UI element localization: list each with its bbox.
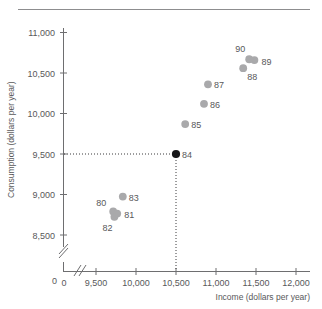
data-point-label-84: 84 bbox=[182, 150, 192, 160]
y-axis-tick-labels: 11,000 10,500 10,000 9,500 9,000 8,500 0 bbox=[27, 28, 57, 286]
x-tick-label-12000: 12,000 bbox=[282, 278, 310, 288]
data-point-90[interactable] bbox=[245, 55, 253, 63]
y-tick-label-9500: 9,500 bbox=[32, 150, 55, 160]
x-axis-title: Income (dollars per year) bbox=[216, 292, 311, 302]
x-tick-label-9500: 9,500 bbox=[85, 278, 108, 288]
data-points-layer: 8081828384858687888990 bbox=[96, 44, 271, 233]
data-point-label-87: 87 bbox=[214, 80, 224, 90]
y-tick-label-10000: 10,000 bbox=[27, 109, 55, 119]
x-tick-label-11500: 11,500 bbox=[243, 278, 270, 288]
data-point-83[interactable] bbox=[119, 193, 127, 201]
data-point-label-81: 81 bbox=[124, 210, 134, 220]
y-tick-label-9000: 9,000 bbox=[32, 190, 55, 200]
x-tick-label-10000: 10,000 bbox=[122, 278, 150, 288]
y-tick-label-11000: 11,000 bbox=[28, 28, 55, 38]
data-point-88[interactable] bbox=[239, 64, 247, 72]
data-point-label-85: 85 bbox=[191, 120, 201, 130]
x-tick-label-10500: 10,500 bbox=[162, 278, 190, 288]
scatter-plot: 11,000 10,500 10,000 9,500 9,000 8,500 0… bbox=[0, 0, 322, 309]
y-axis-origin-label: 0 bbox=[52, 276, 57, 286]
x-axis-origin-label: 0 bbox=[61, 278, 66, 288]
x-tick-label-11000: 11,000 bbox=[203, 278, 230, 288]
data-point-label-90: 90 bbox=[235, 44, 245, 54]
figure-container: 11,000 10,500 10,000 9,500 9,000 8,500 0… bbox=[0, 0, 322, 309]
data-point-85[interactable] bbox=[181, 120, 189, 128]
data-point-label-83: 83 bbox=[129, 193, 139, 203]
y-axis-title: Consumption (dollars per year) bbox=[6, 81, 16, 198]
x-axis-tick-labels: 9,500 10,000 10,500 11,000 11,500 12,000… bbox=[61, 278, 309, 288]
y-tick-label-8500: 8,500 bbox=[32, 231, 55, 241]
data-point-label-89: 89 bbox=[261, 57, 271, 67]
y-tick-label-10500: 10,500 bbox=[27, 69, 55, 79]
x-axis-break-icon bbox=[74, 265, 86, 276]
data-point-82[interactable] bbox=[111, 213, 119, 221]
data-point-86[interactable] bbox=[200, 100, 208, 108]
data-point-87[interactable] bbox=[204, 80, 212, 88]
data-point-label-80: 80 bbox=[96, 198, 106, 208]
data-point-label-88: 88 bbox=[247, 72, 257, 82]
data-point-label-86: 86 bbox=[210, 100, 220, 110]
data-point-label-82: 82 bbox=[102, 223, 112, 233]
data-point-84[interactable] bbox=[172, 150, 180, 158]
